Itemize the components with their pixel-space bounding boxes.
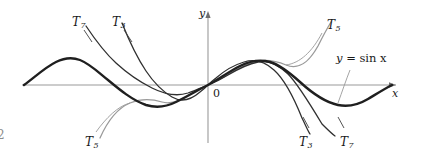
plot-canvas — [0, 0, 428, 158]
leader-line-T7-upper-left — [84, 30, 92, 42]
leader-line-T5-lower-left — [96, 103, 130, 132]
leader-line-T7-lower-right — [338, 117, 344, 128]
label-T7-lower-right: T7 — [340, 136, 353, 148]
x-axis-label: x — [392, 88, 398, 99]
label-T3-upper-left: T3 — [112, 16, 125, 28]
leader-line-T3-upper-left — [124, 30, 132, 42]
equation-label-sin-x: y = sin x — [336, 53, 387, 65]
y-axis-label: y — [199, 8, 205, 19]
page-number-artifact: 2 — [0, 128, 5, 142]
label-T7-upper-left: T7 — [72, 16, 85, 28]
label-T5-upper-right: T5 — [327, 19, 340, 31]
origin-label: 0 — [213, 88, 220, 99]
label-T5-lower-left: T5 — [85, 136, 98, 148]
label-T3-lower-right: T3 — [299, 136, 312, 148]
curve-T3 — [122, 23, 310, 134]
taylor-polynomial-figure: x y 0 T7 T3 T5 T5 T3 T7 y = sin x 2 — [0, 0, 428, 158]
y-axis-arrowhead — [205, 11, 210, 18]
leader-line-sin-x — [338, 70, 350, 103]
y-axis — [205, 11, 210, 143]
